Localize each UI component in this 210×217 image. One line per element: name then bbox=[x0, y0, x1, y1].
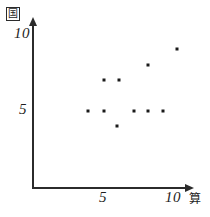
data-point bbox=[118, 79, 121, 82]
data-point bbox=[147, 63, 150, 66]
data-point bbox=[102, 79, 105, 82]
data-point bbox=[86, 110, 89, 113]
data-point bbox=[132, 110, 135, 113]
data-point bbox=[176, 48, 179, 51]
data-point bbox=[102, 110, 105, 113]
data-points-layer bbox=[0, 0, 210, 217]
data-point bbox=[147, 110, 150, 113]
data-point bbox=[115, 125, 118, 128]
scatter-plot-figure: 10 5 5 10 国 算 bbox=[0, 0, 210, 217]
data-point bbox=[161, 110, 164, 113]
